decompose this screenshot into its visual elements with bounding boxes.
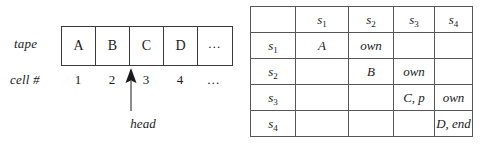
- row-header-s3-sub: 3: [273, 97, 278, 107]
- table-cell-s1-s3: [394, 33, 435, 59]
- table-row-header-s4: s4: [251, 111, 296, 137]
- head-label: head: [113, 116, 173, 132]
- row-header-s1-sub: 1: [273, 45, 278, 55]
- table-cell-s3-s2: [349, 85, 394, 111]
- state-transition-table: s1 s2 s3 s4 s1 A: [250, 6, 473, 137]
- head-arrow-icon: [118, 64, 152, 114]
- table-cell-s2-s1: [296, 59, 349, 85]
- tape-cell-ellipsis: …: [198, 27, 232, 65]
- col-header-s3-sub: 3: [414, 19, 419, 29]
- table-cell-s4-s3: [394, 111, 435, 137]
- table-cell-s1-s4: [435, 33, 473, 59]
- table-col-header-s3: s3: [394, 7, 435, 33]
- cell-number-4: 4: [163, 72, 197, 88]
- col-header-s4-sub: 4: [454, 19, 459, 29]
- tape-cell-4: D: [164, 27, 198, 65]
- row-header-s4-sub: 4: [273, 123, 278, 133]
- table-row-header-s3: s3: [251, 85, 296, 111]
- cell-number-1: 1: [61, 72, 95, 88]
- table-cell-s1-s1: A: [296, 33, 349, 59]
- col-header-s1-sub: 1: [322, 19, 327, 29]
- table-row: s2 B own: [251, 59, 473, 85]
- turing-machine-figure: tape cell # A B C D … 1 2 3 4 … head: [0, 0, 488, 144]
- table-cell-s2-s2: B: [349, 59, 394, 85]
- state-transition-table-wrapper: s1 s2 s3 s4 s1 A: [250, 6, 467, 133]
- cell-number-row-label: cell #: [10, 72, 60, 88]
- tape-strip: A B C D …: [61, 26, 233, 66]
- table-cell-s3-s3: C, p: [394, 85, 435, 111]
- table-cell-s1-s2: own: [349, 33, 394, 59]
- table-header-row: s1 s2 s3 s4: [251, 7, 473, 33]
- tape-cell-3: C: [130, 27, 164, 65]
- tape-row-label: tape: [14, 36, 58, 52]
- table-cell-s4-s1: [296, 111, 349, 137]
- table-cell-s2-s3: own: [394, 59, 435, 85]
- tape-diagram: tape cell # A B C D … 1 2 3 4 … head: [0, 0, 244, 144]
- table-corner-cell: [251, 7, 296, 33]
- table-cell-s2-s4: [435, 59, 473, 85]
- table-col-header-s4: s4: [435, 7, 473, 33]
- table-row: s1 A own: [251, 33, 473, 59]
- table-cell-s4-s4: D, end: [435, 111, 473, 137]
- row-header-s2-sub: 2: [273, 71, 278, 81]
- tape-cell-1: A: [62, 27, 96, 65]
- table-row-header-s1: s1: [251, 33, 296, 59]
- table-cell-s3-s1: [296, 85, 349, 111]
- tape-cell-2: B: [96, 27, 130, 65]
- table-col-header-s2: s2: [349, 7, 394, 33]
- table-row: s4 D, end: [251, 111, 473, 137]
- col-header-s2-sub: 2: [371, 19, 376, 29]
- cell-number-ellipsis: …: [197, 72, 231, 88]
- table-cell-s4-s2: [349, 111, 394, 137]
- table-col-header-s1: s1: [296, 7, 349, 33]
- table-row: s3 C, p own: [251, 85, 473, 111]
- table-cell-s3-s4: own: [435, 85, 473, 111]
- table-row-header-s2: s2: [251, 59, 296, 85]
